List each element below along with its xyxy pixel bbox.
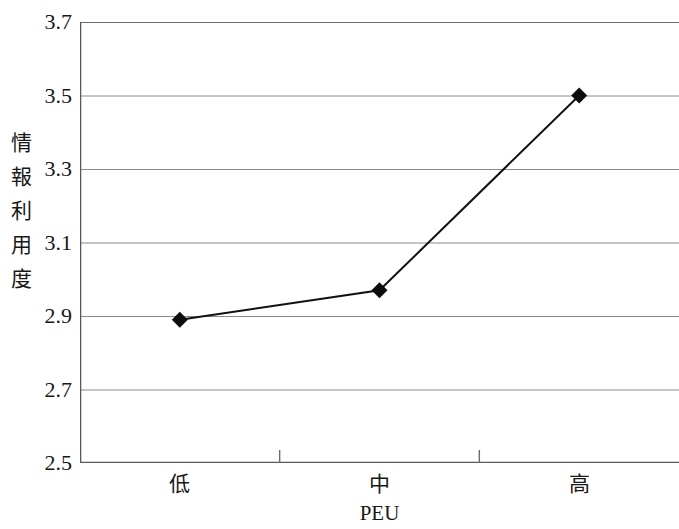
y-tick-label: 3.7 [24,11,72,33]
line-chart: 情 報 利 用 度 3.7 3.5 3.3 3.1 2.9 2.7 2.5 [0,0,679,529]
y-axis-tick-labels: 3.7 3.5 3.3 3.1 2.9 2.7 2.5 [24,0,72,529]
plot-area [80,22,679,463]
y-tick-label: 2.9 [24,305,72,327]
y-tick-label: 2.7 [24,379,72,401]
x-tick-label: 低 [120,470,240,498]
y-tick-label: 2.5 [24,452,72,474]
y-tick-label: 3.5 [24,85,72,107]
data-point-marker[interactable] [172,312,188,328]
y-tick-label: 3.1 [24,232,72,254]
x-axis-tick-labels: 低 中 高 [80,470,679,502]
x-tick-label: 高 [519,470,639,498]
x-axis-title: PEU [80,500,679,526]
plot-svg [80,22,679,463]
gridlines [80,23,679,391]
x-tick-label: 中 [320,470,440,498]
data-point-markers [172,88,587,328]
x-axis-ticks [280,450,480,463]
y-tick-label: 3.3 [24,158,72,180]
